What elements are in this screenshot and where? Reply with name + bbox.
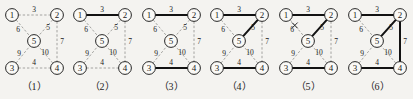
- node-label-2: 2: [55, 10, 60, 20]
- edge-weight-4-5: 10: [178, 48, 186, 57]
- graph-canvas-6: 3657910412534: [343, 0, 411, 78]
- edge-weight-3-4: 4: [169, 58, 173, 67]
- node-label-1: 1: [215, 10, 220, 20]
- edge-weight-2-5: 5: [183, 23, 187, 32]
- edge-weight-3-5: 9: [222, 49, 226, 58]
- edge-weight-1-5: 6: [16, 25, 20, 34]
- panel-caption-6: （6）: [343, 78, 411, 93]
- node-label-3: 3: [147, 63, 152, 73]
- node-label-4: 4: [329, 63, 334, 73]
- edge-weight-4-5: 10: [315, 48, 323, 57]
- graph-canvas-3: 3657910412534: [137, 0, 205, 78]
- edge-weight-1-5: 6: [359, 25, 363, 34]
- edge-weight-3-4: 4: [375, 58, 379, 67]
- edge-weight-1-2: 3: [237, 5, 241, 14]
- edge-weight-3-5: 9: [360, 49, 364, 58]
- node-label-3: 3: [215, 63, 220, 73]
- edge-weight-2-4: 7: [265, 37, 269, 46]
- edge-weight-4-5: 10: [41, 48, 49, 57]
- edge-weight-2-4: 7: [334, 37, 338, 46]
- graph-panel-2: 3657910412534（2）: [68, 0, 136, 99]
- edge-weight-1-2: 3: [169, 5, 173, 14]
- panel-caption-4: （4）: [205, 78, 273, 93]
- node-label-2: 2: [329, 10, 334, 20]
- edge-weight-3-4: 4: [100, 58, 104, 67]
- edge-weight-4-5: 10: [246, 48, 254, 57]
- edge-weight-2-5: 5: [389, 23, 393, 32]
- edge-weight-2-5: 5: [251, 23, 255, 32]
- node-label-2: 2: [123, 10, 128, 20]
- edge-weight-1-5: 6: [290, 25, 294, 34]
- graph-canvas-4: 3657910412534: [205, 0, 273, 78]
- node-label-3: 3: [10, 63, 15, 73]
- node-label-1: 1: [284, 10, 289, 20]
- edge-weight-2-5: 5: [320, 23, 324, 32]
- edge-weight-3-5: 9: [291, 49, 295, 58]
- edge-weight-3-5: 9: [154, 49, 158, 58]
- node-label-1: 1: [147, 10, 152, 20]
- edge-weight-2-4: 7: [128, 37, 132, 46]
- panel-caption-3: （3）: [137, 78, 205, 93]
- node-label-5: 5: [237, 36, 242, 46]
- graph-canvas-5: 3657910412534: [274, 0, 342, 78]
- panel-caption-2: （2）: [68, 78, 136, 93]
- node-label-1: 1: [78, 10, 83, 20]
- graph-panel-4: 3657910412534（4）: [205, 0, 273, 99]
- edge-weight-2-4: 7: [60, 37, 64, 46]
- mst-figure-strip: 3657910412534（1）3657910412534（2）36579104…: [0, 0, 413, 99]
- graph-panel-3: 3657910412534（3）: [137, 0, 205, 99]
- graph-panel-5: 3657910412534（5）: [274, 0, 342, 99]
- edge-weight-4-5: 10: [109, 48, 117, 57]
- graph-panel-6: 3657910412534（6）: [343, 0, 411, 99]
- node-label-4: 4: [55, 63, 60, 73]
- edge-weight-3-5: 9: [85, 49, 89, 58]
- graph-canvas-1: 3657910412534: [0, 0, 68, 78]
- graph-canvas-2: 3657910412534: [68, 0, 136, 78]
- node-label-5: 5: [306, 36, 311, 46]
- edge-weight-4-5: 10: [384, 48, 392, 57]
- panel-caption-5: （5）: [274, 78, 342, 93]
- node-label-3: 3: [353, 63, 358, 73]
- edge-weight-3-4: 4: [306, 58, 310, 67]
- node-label-2: 2: [260, 10, 265, 20]
- node-label-4: 4: [260, 63, 265, 73]
- edge-weight-1-2: 3: [306, 5, 310, 14]
- node-label-1: 1: [353, 10, 358, 20]
- node-label-5: 5: [375, 36, 380, 46]
- edge-weight-1-5: 6: [84, 25, 88, 34]
- node-label-5: 5: [169, 36, 174, 46]
- edge-weight-1-5: 6: [221, 25, 225, 34]
- graph-panel-1: 3657910412534（1）: [0, 0, 68, 99]
- node-label-1: 1: [10, 10, 15, 20]
- node-label-2: 2: [192, 10, 197, 20]
- edge-weight-3-4: 4: [32, 58, 36, 67]
- node-label-3: 3: [78, 63, 83, 73]
- node-label-4: 4: [192, 63, 197, 73]
- node-label-5: 5: [100, 36, 105, 46]
- edge-weight-1-5: 6: [153, 25, 157, 34]
- node-label-3: 3: [284, 63, 289, 73]
- edge-weight-3-4: 4: [237, 58, 241, 67]
- edge-weight-3-5: 9: [17, 49, 21, 58]
- node-label-5: 5: [32, 36, 37, 46]
- node-label-4: 4: [398, 63, 403, 73]
- node-label-2: 2: [398, 10, 403, 20]
- edge-weight-1-2: 3: [100, 5, 104, 14]
- edge-weight-2-5: 5: [46, 23, 50, 32]
- edge-weight-2-5: 5: [114, 23, 118, 32]
- edge-weight-1-2: 3: [375, 5, 379, 14]
- edge-weight-1-2: 3: [32, 5, 36, 14]
- panel-caption-1: （1）: [0, 78, 68, 93]
- edge-weight-2-4: 7: [197, 37, 201, 46]
- node-label-4: 4: [123, 63, 128, 73]
- edge-weight-2-4: 7: [403, 37, 407, 46]
